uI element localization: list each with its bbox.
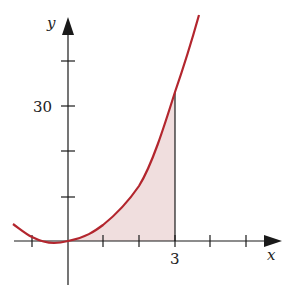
chart: 30 3 x y (0, 0, 288, 295)
y-tick-label-30: 30 (33, 98, 52, 116)
y-axis-label: y (46, 14, 56, 32)
y-axis-arrow-icon (62, 17, 74, 35)
x-tick-label-3: 3 (170, 250, 180, 268)
x-axis-label: x (267, 246, 276, 264)
shaded-area (68, 92, 175, 241)
